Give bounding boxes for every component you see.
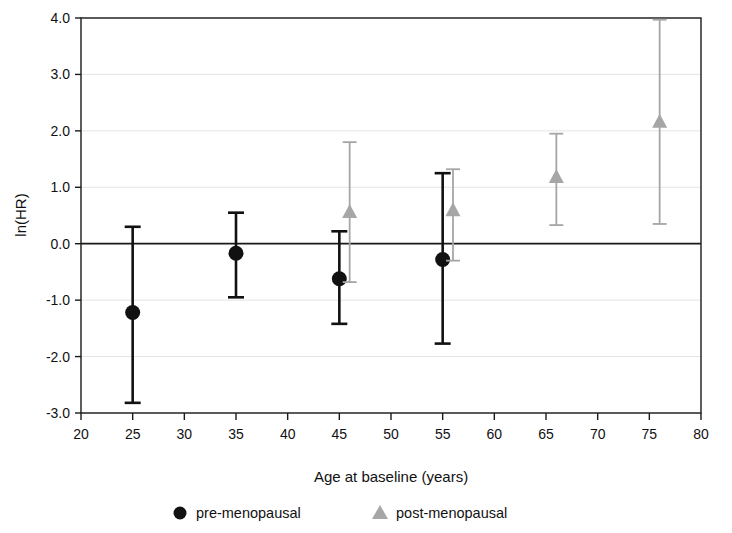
x-tick-label: 80 [693, 426, 709, 442]
data-marker-circle [229, 246, 244, 261]
x-axis-label: Age at baseline (years) [314, 468, 468, 485]
x-tick-label: 50 [383, 426, 399, 442]
chart-background [0, 0, 732, 533]
x-tick-label: 55 [435, 426, 451, 442]
x-tick-label: 30 [177, 426, 193, 442]
x-tick-label: 75 [642, 426, 658, 442]
y-axis-label: ln(HR) [12, 193, 29, 236]
x-tick-label: 25 [125, 426, 141, 442]
x-tick-label: 65 [538, 426, 554, 442]
chart-figure: 4.03.02.01.00.0-1.0-2.0-3.0 202530354045… [0, 0, 732, 533]
x-tick-label: 35 [228, 426, 244, 442]
data-marker-circle [435, 252, 450, 267]
x-tick-label: 60 [487, 426, 503, 442]
y-tick-label: 2.0 [51, 123, 71, 139]
y-tick-label: 0.0 [51, 236, 71, 252]
y-tick-label: 1.0 [51, 179, 71, 195]
legend-label: post-menopausal [396, 505, 507, 521]
y-tick-label: 3.0 [51, 66, 71, 82]
legend-marker-circle [174, 507, 187, 520]
data-marker-circle [125, 305, 140, 320]
x-tick-label: 40 [280, 426, 296, 442]
y-tick-label: -2.0 [46, 349, 70, 365]
y-tick-label: 4.0 [51, 10, 71, 26]
legend-label: pre-menopausal [196, 505, 301, 521]
y-tick-label: -3.0 [46, 405, 70, 421]
y-tick-label: -1.0 [46, 292, 70, 308]
x-tick-label: 45 [332, 426, 348, 442]
x-tick-label: 20 [73, 426, 89, 442]
data-marker-circle [332, 271, 347, 286]
x-tick-label: 70 [590, 426, 606, 442]
